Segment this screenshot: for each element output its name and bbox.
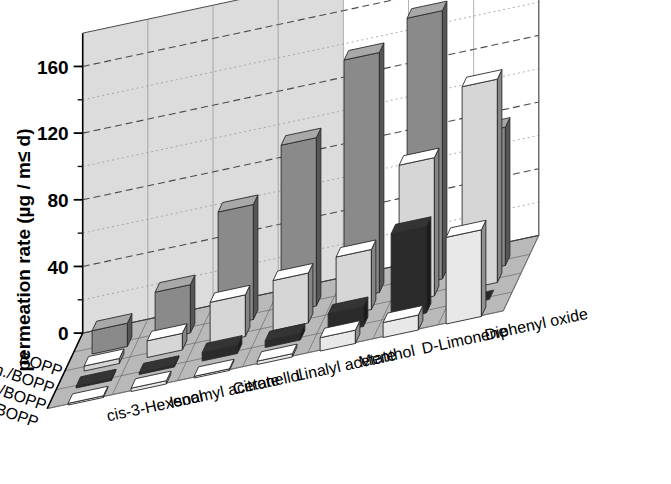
y-axis-title-group: permeation rate (µg / m≤ d) <box>13 128 34 371</box>
bar <box>391 217 431 321</box>
bar <box>273 263 313 330</box>
bar-side-face <box>434 148 438 296</box>
y-axis-title: permeation rate (µg / m≤ d) <box>13 128 34 371</box>
y-tick-label: 160 <box>37 57 69 78</box>
bar-side-face <box>481 220 485 316</box>
bar-side-face <box>371 240 375 310</box>
bar <box>210 285 250 344</box>
y-tick-label: 120 <box>37 123 69 144</box>
bar-front-face <box>446 230 481 324</box>
bar-side-face <box>316 128 320 306</box>
bar-side-face <box>497 70 501 283</box>
figure-container: 04080120160cis-3-HexenolIsoamyl acetateC… <box>0 0 671 484</box>
bar-side-face <box>505 118 509 266</box>
y-tick-label: 80 <box>48 190 69 211</box>
bar-side-face <box>426 217 430 313</box>
y-tick-label: 40 <box>48 257 69 278</box>
bar-side-face <box>253 195 257 320</box>
y-tick-label: 0 <box>58 323 69 344</box>
bar <box>446 220 486 324</box>
bar-front-face <box>273 273 308 331</box>
permeation-rate-3d-bar-chart: 04080120160cis-3-HexenolIsoamyl acetateC… <box>0 0 671 484</box>
bar-side-face <box>379 43 383 293</box>
